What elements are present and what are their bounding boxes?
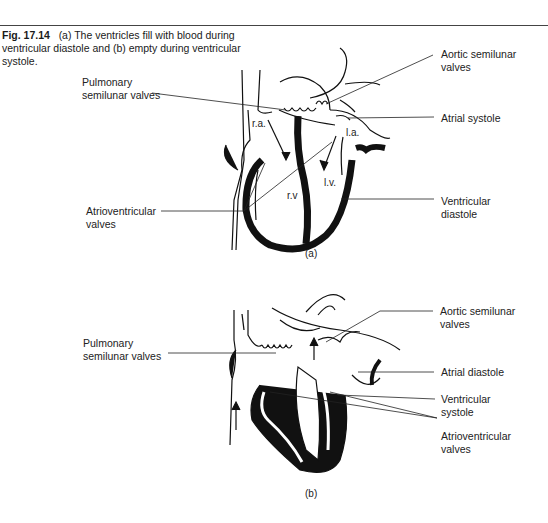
label-aortic-semilunar-b: Aortic semilunar valves: [440, 305, 515, 330]
panel-b-sublabel: (b): [305, 488, 317, 499]
label-ventricular-diastole: Ventricular diastole: [441, 195, 491, 220]
left-atrium-label: l.a.: [346, 127, 359, 138]
label-ventricular-systole: Ventricular systole: [441, 393, 491, 418]
panel-a-sublabel: (a): [305, 248, 317, 259]
label-pulmonary-semilunar-b: Pulmonary semilunar valves: [83, 337, 161, 362]
label-atrioventricular-a: Atrioventricular valves: [86, 205, 156, 230]
right-atrium-label: r.a.: [252, 118, 266, 129]
heart-diagram-a: [225, 48, 391, 250]
label-atrial-systole: Atrial systole: [441, 112, 501, 125]
heart-diagram-b: [230, 295, 400, 473]
label-atrioventricular-b: Atrioventricular valves: [441, 430, 511, 455]
label-pulmonary-semilunar-a: Pulmonary semilunar valves: [82, 76, 160, 101]
leader-lines-a: [152, 55, 434, 211]
label-atrial-diastole: Atrial diastole: [441, 366, 504, 379]
right-ventricle-label: r.v: [287, 190, 298, 201]
label-aortic-semilunar-a: Aortic semilunar valves: [441, 48, 516, 73]
left-ventricle-label: l.v.: [324, 177, 336, 188]
